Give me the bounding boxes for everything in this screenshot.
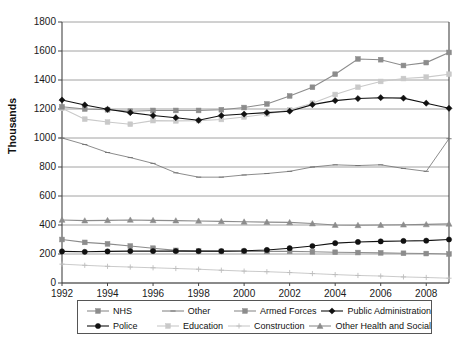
legend-marker-circle-icon: [86, 321, 110, 331]
series-construction: [59, 262, 451, 281]
x-tick-1998: 1998: [179, 289, 219, 299]
y-tick-1800: 1800: [20, 17, 56, 27]
marker-diamond: [59, 97, 65, 103]
marker-square: [356, 85, 361, 90]
marker-plus: [242, 269, 247, 274]
marker-square: [105, 120, 110, 125]
marker-circle: [446, 237, 451, 242]
legend-item-education[interactable]: Education: [152, 318, 223, 333]
marker-square: [447, 252, 452, 257]
marker-circle: [173, 249, 178, 254]
marker-circle: [95, 323, 100, 328]
marker-plus: [105, 264, 110, 269]
marker-diamond: [446, 105, 452, 111]
marker-plus: [219, 268, 224, 273]
x-tick-1996: 1996: [133, 289, 173, 299]
marker-diamond: [332, 97, 338, 103]
marker-plus: [424, 275, 429, 280]
x-tick-2004: 2004: [315, 289, 355, 299]
marker-circle: [378, 239, 383, 244]
series-line: [62, 240, 449, 252]
legend-row: PoliceEducationConstructionOther Health …: [78, 318, 431, 333]
marker-square: [333, 250, 338, 255]
legend-item-public-administration[interactable]: Public Administration: [316, 303, 431, 318]
marker-plus: [59, 262, 64, 267]
marker-square: [60, 104, 65, 109]
legend-marker-triangle-icon: [308, 321, 332, 331]
marker-square: [424, 251, 429, 256]
marker-square: [105, 241, 110, 246]
marker-plus: [173, 266, 178, 271]
line-chart: Thousands 020040060080010001200140016001…: [0, 0, 457, 344]
marker-circle: [310, 243, 315, 248]
marker-square: [310, 85, 315, 90]
marker-square: [287, 94, 292, 99]
marker-square: [165, 323, 170, 328]
legend-item-construction[interactable]: Construction: [223, 318, 305, 333]
marker-diamond: [150, 112, 156, 118]
marker-square: [378, 250, 383, 255]
marker-plus: [401, 274, 406, 279]
marker-circle: [196, 249, 201, 254]
marker-circle: [287, 246, 292, 251]
marker-circle: [355, 239, 360, 244]
legend-marker-plus-icon: [227, 321, 251, 331]
marker-square: [447, 72, 452, 77]
marker-square: [128, 244, 133, 249]
marker-square: [96, 308, 101, 313]
legend-marker-diamond-icon: [320, 306, 344, 316]
legend-item-other[interactable]: Other: [157, 303, 229, 318]
marker-diamond: [400, 95, 406, 101]
legend-label: Public Administration: [347, 306, 431, 316]
marker-plus: [378, 273, 383, 278]
series-line: [62, 220, 449, 225]
marker-diamond: [378, 95, 384, 101]
legend-label: NHS: [113, 306, 132, 316]
y-tick-400: 400: [20, 220, 56, 230]
marker-circle: [424, 238, 429, 243]
x-tick-2006: 2006: [361, 289, 401, 299]
legend-label: Police: [113, 321, 138, 331]
marker-circle: [219, 249, 224, 254]
marker-square: [196, 108, 201, 113]
legend-item-nhs[interactable]: NHS: [78, 303, 157, 318]
marker-circle: [128, 249, 133, 254]
y-axis-title: Thousands: [6, 66, 18, 186]
marker-square: [310, 249, 315, 254]
marker-square: [82, 117, 87, 122]
legend-item-police[interactable]: Police: [78, 318, 152, 333]
legend-label: Armed Forces: [260, 306, 317, 316]
marker-circle: [333, 241, 338, 246]
legend-row: NHSOtherArmed ForcesPublic Administratio…: [78, 303, 431, 318]
marker-square: [243, 308, 248, 313]
marker-diamond: [329, 307, 335, 313]
legend-marker-dash-icon: [161, 306, 185, 316]
y-tick-200: 200: [20, 249, 56, 259]
marker-circle: [82, 249, 87, 254]
marker-circle: [264, 247, 269, 252]
x-tick-2008: 2008: [406, 289, 446, 299]
series-line: [62, 52, 449, 111]
y-tick-800: 800: [20, 162, 56, 172]
marker-square: [378, 57, 383, 62]
marker-square: [378, 79, 383, 84]
x-tick-1992: 1992: [42, 289, 82, 299]
series-armed-forces: [60, 237, 452, 256]
gridlines: [62, 22, 449, 283]
series-line: [62, 74, 449, 124]
x-tick-1994: 1994: [88, 289, 128, 299]
marker-square: [60, 237, 65, 242]
marker-square: [333, 92, 338, 97]
series-line: [62, 264, 449, 278]
marker-plus: [333, 272, 338, 277]
marker-square: [333, 72, 338, 77]
y-tick-600: 600: [20, 191, 56, 201]
marker-plus: [355, 273, 360, 278]
marker-diamond: [355, 95, 361, 101]
legend-item-armed-forces[interactable]: Armed Forces: [229, 303, 317, 318]
marker-circle: [150, 249, 155, 254]
marker-plus: [150, 265, 155, 270]
marker-square: [356, 57, 361, 62]
y-tick-1600: 1600: [20, 46, 56, 56]
legend-item-other-health-and-social[interactable]: Other Health and Social: [304, 318, 431, 333]
